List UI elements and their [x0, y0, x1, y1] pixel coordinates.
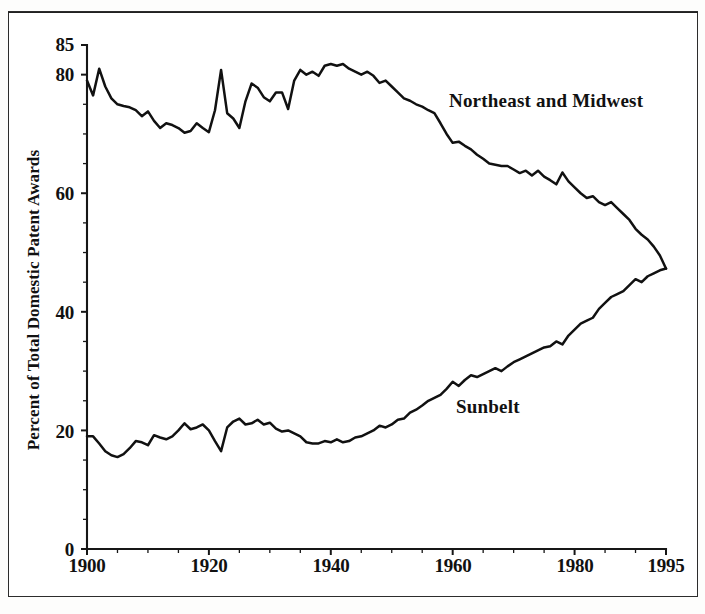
y-tick-label-85: 85	[28, 34, 74, 56]
x-tick-label-1920: 1920	[169, 555, 249, 577]
x-tick-label-1940: 1940	[291, 555, 371, 577]
series-label-northeast-and-midwest: Northeast and Midwest	[449, 90, 643, 112]
chart-page: 85 80 60 40 20 0 1900 1920 1940 1960 198…	[0, 0, 705, 614]
x-tick-label-1980: 1980	[535, 555, 615, 577]
x-tick-label-1995: 1995	[626, 555, 705, 577]
y-axis-title: Percent of Total Domestic Patent Awards	[24, 120, 44, 480]
y-tick-label-80: 80	[28, 64, 74, 86]
series-line-sunbelt	[87, 269, 666, 458]
series-label-sunbelt: Sunbelt	[456, 396, 520, 418]
x-tick-label-1960: 1960	[413, 555, 493, 577]
chart-plot-area: 85 80 60 40 20 0 1900 1920 1940 1960 198…	[0, 0, 705, 614]
x-tick-label-1900: 1900	[47, 555, 127, 577]
axis-group	[87, 45, 666, 549]
